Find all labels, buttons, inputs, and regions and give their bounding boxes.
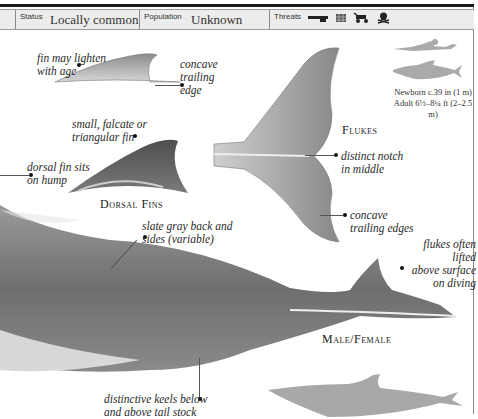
annotation-flukes-lifted: flukes often lifted above surface on div… [400, 238, 476, 290]
right-rule [473, 7, 474, 414]
species-info-header: Status Locally common Population Unknown… [0, 9, 474, 30]
annotation-dot [400, 266, 404, 270]
leader-line [199, 358, 200, 398]
status-value: Locally common [50, 12, 138, 28]
pollution-skull-icon [378, 12, 389, 23]
dolphin-profile-silhouette [268, 372, 468, 417]
population-cell: Population Unknown [139, 10, 269, 29]
annotation-keels: distinctive keels below and above tail s… [104, 393, 207, 419]
swimmer-silhouette [393, 38, 458, 54]
dolphin-body-illustration [0, 160, 460, 380]
caption-flukes: Flukes [342, 123, 377, 138]
population-value: Unknown [191, 12, 242, 28]
net-icon [336, 14, 346, 22]
annotation-fin-lighten: fin may lighten with age [37, 52, 106, 78]
vehicle-icon [354, 13, 370, 23]
population-label: Population [144, 12, 182, 21]
status-cell: Status Locally common [15, 10, 139, 29]
threats-label: Threats [274, 12, 301, 21]
status-label: Status [20, 12, 43, 21]
gun-icon [308, 14, 328, 22]
caption-male-female: Male/Female [322, 332, 391, 347]
annotation-dot [334, 153, 338, 157]
size-scale-text: Newborn c.39 in (1 m) Adult 6½–8¼ ft (2–… [390, 87, 476, 120]
annotation-slate-gray: slate gray back and sides (variable) [142, 220, 232, 246]
annotation-dot [180, 83, 184, 87]
annotation-dot [133, 134, 137, 138]
threats-cell: Threats [269, 10, 474, 29]
annotation-dot [143, 235, 147, 239]
dolphin-scale-silhouette [393, 60, 463, 82]
newborn-size: Newborn c.39 in (1 m) [390, 87, 476, 98]
top-rule [0, 4, 474, 7]
adult-size: Adult 6½–8¼ ft (2–2.5 m) [390, 98, 476, 120]
annotation-concave-trailing-edge: concave trailing edge [180, 58, 218, 97]
leader-line [305, 155, 334, 156]
annotation-dot [77, 63, 81, 67]
header-stub [0, 10, 15, 29]
leader-line [155, 85, 180, 86]
